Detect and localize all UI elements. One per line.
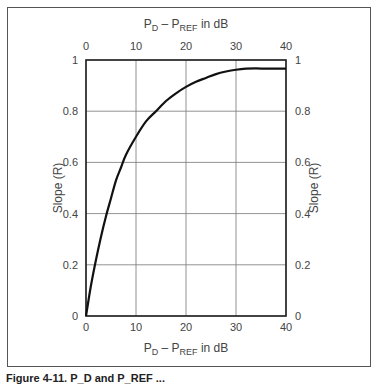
bottom-x-axis-title: PD – PREF in dB — [144, 341, 229, 357]
top-x-tick-label: 40 — [280, 40, 292, 52]
left-y-axis-title: Slope (R) — [51, 163, 65, 214]
bottom-x-tick-labels: 010203040 — [83, 321, 292, 333]
left-y-tick-label: 0 — [72, 310, 78, 322]
top-x-axis-title: PD – PREF in dB — [144, 17, 229, 33]
top-x-tick-label: 0 — [83, 40, 89, 52]
bottom-x-tick-label: 40 — [280, 321, 292, 333]
bottom-x-tick-label: 10 — [130, 321, 142, 333]
left-y-tick-label: 1 — [72, 54, 78, 66]
top-x-tick-labels: 010203040 — [83, 40, 292, 52]
left-y-tick-label: 0.8 — [63, 105, 78, 117]
left-y-tick-label: 0.2 — [63, 259, 78, 271]
bottom-x-tick-label: 0 — [83, 321, 89, 333]
top-x-tick-label: 20 — [180, 40, 192, 52]
top-x-tick-label: 30 — [230, 40, 242, 52]
grid-lines — [86, 60, 286, 316]
figure-caption: Figure 4-11. P_D and P_REF ... — [6, 372, 165, 384]
bottom-x-tick-label: 20 — [180, 321, 192, 333]
right-y-tick-label: 0.2 — [295, 259, 310, 271]
right-y-tick-label: 0.8 — [295, 105, 310, 117]
right-y-tick-label: 0 — [295, 310, 301, 322]
top-x-tick-label: 10 — [130, 40, 142, 52]
right-y-axis-title: Slope (R) — [307, 163, 321, 214]
right-y-tick-label: 1 — [295, 54, 301, 66]
bottom-x-tick-label: 30 — [230, 321, 242, 333]
